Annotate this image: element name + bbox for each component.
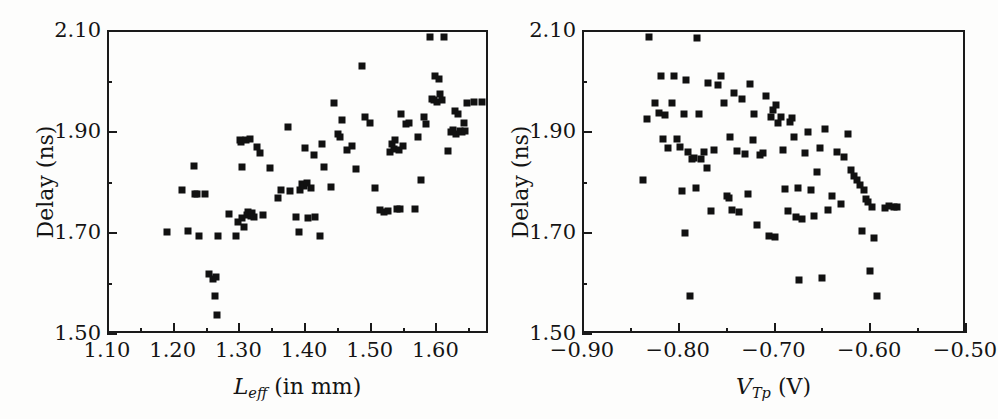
data-point xyxy=(734,148,741,155)
x-axis-title-right: VTp (V) xyxy=(736,376,811,401)
y-major-tick xyxy=(107,131,117,133)
data-point xyxy=(310,151,317,158)
data-point xyxy=(671,73,678,80)
x-axis-symbol-left: L xyxy=(234,374,249,399)
data-point xyxy=(754,221,761,228)
figure-root: 1.101.201.301.401.501.601.501.701.902.10… xyxy=(0,0,998,419)
data-point xyxy=(460,120,467,127)
x-tick-label: 1.20 xyxy=(149,340,196,361)
y-axis-title-right: Delay (ns) xyxy=(510,125,532,238)
y-tick-label: 1.50 xyxy=(524,323,576,344)
x-minor-tick xyxy=(337,328,339,333)
data-point xyxy=(678,188,685,195)
x-major-tick xyxy=(965,323,967,333)
data-point xyxy=(665,145,672,152)
data-point xyxy=(251,213,258,220)
data-point xyxy=(366,119,373,126)
data-point xyxy=(741,150,748,157)
y-minor-tick xyxy=(582,283,587,285)
scatter-panel-right: −0.90−0.80−0.70−0.60−0.501.501.701.902.1… xyxy=(499,0,998,419)
data-point xyxy=(762,92,769,99)
data-point xyxy=(295,228,302,235)
data-point xyxy=(703,164,710,171)
x-axis-title-left: Leff (in mm) xyxy=(234,376,362,401)
data-point xyxy=(693,35,700,42)
data-point xyxy=(715,82,722,89)
x-tick-label: 1.30 xyxy=(215,340,262,361)
plot-frame-left xyxy=(107,30,488,333)
data-point xyxy=(435,76,442,83)
x-major-tick xyxy=(774,323,776,333)
data-point xyxy=(736,208,743,215)
data-point xyxy=(731,90,738,97)
data-point xyxy=(796,277,803,284)
data-point xyxy=(782,186,789,193)
x-tick-label: −0.70 xyxy=(741,340,805,361)
data-point xyxy=(479,98,486,105)
data-point xyxy=(397,206,404,213)
data-point xyxy=(771,234,778,241)
data-point xyxy=(780,146,787,153)
y-major-tick xyxy=(107,232,117,234)
data-point xyxy=(423,120,430,127)
data-point xyxy=(858,228,865,235)
data-point xyxy=(470,99,477,106)
data-point xyxy=(788,114,795,121)
y-major-tick xyxy=(582,333,592,335)
data-point xyxy=(825,206,832,213)
data-point xyxy=(284,123,291,130)
data-point xyxy=(319,140,326,147)
data-point xyxy=(738,95,745,102)
data-point xyxy=(412,206,419,213)
data-point xyxy=(802,149,809,156)
x-major-tick xyxy=(869,323,871,333)
data-point xyxy=(805,129,812,136)
data-point xyxy=(751,110,758,117)
y-minor-tick xyxy=(582,182,587,184)
data-point xyxy=(693,185,700,192)
y-major-tick xyxy=(582,131,592,133)
data-point xyxy=(305,214,312,221)
data-point xyxy=(312,214,319,221)
data-point xyxy=(816,144,823,151)
data-point xyxy=(749,137,756,144)
data-point xyxy=(813,168,820,175)
x-major-tick xyxy=(238,323,240,333)
data-point xyxy=(845,131,852,138)
y-tick-label: 2.10 xyxy=(524,20,576,41)
y-tick-label: 2.10 xyxy=(49,20,101,41)
x-axis-subscript-left: eff xyxy=(248,385,267,401)
data-point xyxy=(717,72,724,79)
x-minor-tick xyxy=(726,328,728,333)
x-tick-label: −0.50 xyxy=(933,340,997,361)
x-minor-tick xyxy=(630,328,632,333)
plot-area-left xyxy=(109,32,486,331)
data-point xyxy=(339,116,346,123)
data-point xyxy=(405,120,412,127)
data-point xyxy=(398,110,405,117)
data-point xyxy=(302,144,309,151)
x-major-tick xyxy=(678,323,680,333)
plot-frame-right xyxy=(582,30,965,333)
data-point xyxy=(240,224,247,231)
data-point xyxy=(286,187,293,194)
y-minor-tick xyxy=(107,81,112,83)
data-point xyxy=(195,232,202,239)
data-point xyxy=(697,155,704,162)
data-point xyxy=(232,232,239,239)
data-point xyxy=(867,267,874,274)
x-minor-tick xyxy=(140,328,142,333)
data-point xyxy=(257,149,264,156)
data-point xyxy=(810,212,817,219)
data-point xyxy=(837,200,844,207)
data-point xyxy=(194,190,201,197)
x-minor-tick xyxy=(271,328,273,333)
x-minor-tick xyxy=(468,328,470,333)
data-point xyxy=(778,114,785,121)
data-point xyxy=(238,164,245,171)
x-minor-tick xyxy=(821,328,823,333)
data-point xyxy=(337,134,344,141)
data-point xyxy=(274,195,281,202)
data-point xyxy=(420,113,427,120)
x-tick-label: 1.40 xyxy=(281,340,328,361)
